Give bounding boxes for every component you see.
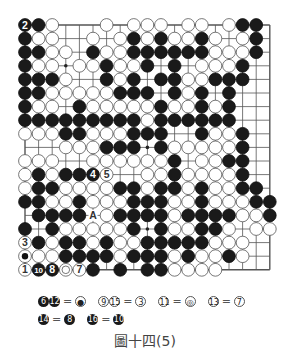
white-stone — [209, 46, 222, 59]
black-stone — [127, 73, 140, 86]
black-stone — [250, 32, 263, 45]
black-stone — [141, 46, 154, 59]
white-stone — [46, 195, 59, 208]
black-stone — [236, 19, 249, 32]
black-stone — [32, 114, 45, 127]
white-stone — [46, 250, 59, 263]
black-stone — [19, 223, 32, 236]
white-stone — [114, 73, 127, 86]
white-stone — [155, 155, 168, 168]
white-stone — [223, 168, 236, 181]
move-number-label: 1 — [22, 263, 28, 275]
black-stone — [195, 195, 208, 208]
white-stone — [32, 32, 45, 45]
black-stone — [236, 141, 249, 154]
white-stone — [250, 223, 263, 236]
black-stone — [73, 250, 86, 263]
white-stone — [73, 182, 86, 195]
white-stone — [141, 155, 154, 168]
white-stone — [182, 73, 195, 86]
black-stone — [19, 59, 32, 72]
black-stone — [155, 223, 168, 236]
black-stone — [195, 100, 208, 113]
white-stone — [263, 223, 276, 236]
black-stone — [195, 46, 208, 59]
white-stone — [46, 168, 59, 181]
white-stone — [223, 141, 236, 154]
black-stone — [114, 263, 127, 276]
white-stone — [46, 19, 59, 32]
white-stone — [87, 32, 100, 45]
black-stone — [19, 46, 32, 59]
black-stone — [223, 209, 236, 222]
black-stone — [46, 73, 59, 86]
legend-stone: ◎ — [185, 296, 196, 307]
black-stone — [168, 155, 181, 168]
white-stone — [114, 223, 127, 236]
white-stone — [209, 195, 222, 208]
white-stone — [168, 263, 181, 276]
black-stone — [195, 127, 208, 140]
white-stone — [46, 155, 59, 168]
white-stone — [59, 141, 72, 154]
white-stone — [59, 182, 72, 195]
white-stone — [195, 59, 208, 72]
white-stone — [155, 19, 168, 32]
black-stone — [182, 46, 195, 59]
black-stone — [168, 236, 181, 249]
black-stone — [100, 73, 113, 86]
white-stone — [168, 209, 181, 222]
black-stone — [127, 127, 140, 140]
white-stone — [114, 250, 127, 263]
white-stone — [114, 100, 127, 113]
move-number-label: 7 — [76, 263, 82, 275]
black-stone — [263, 209, 276, 222]
black-stone — [127, 46, 140, 59]
black-stone — [141, 195, 154, 208]
white-stone — [209, 263, 222, 276]
black-stone — [155, 114, 168, 127]
black-stone — [223, 100, 236, 113]
white-stone — [73, 59, 86, 72]
black-stone — [87, 250, 100, 263]
black-stone — [19, 195, 32, 208]
white-stone — [114, 195, 127, 208]
legend-stone: 13 — [208, 296, 219, 307]
legend-equivalence: 11=◎ — [158, 295, 195, 308]
white-stone — [59, 46, 72, 59]
black-stone — [195, 209, 208, 222]
black-stone — [73, 127, 86, 140]
white-stone — [168, 250, 181, 263]
black-stone — [155, 100, 168, 113]
black-stone — [155, 209, 168, 222]
white-stone — [19, 155, 32, 168]
white-stone — [59, 195, 72, 208]
black-stone — [73, 195, 86, 208]
white-stone — [87, 127, 100, 140]
white-stone — [195, 250, 208, 263]
black-stone — [59, 250, 72, 263]
white-stone — [141, 19, 154, 32]
equals-sign: = — [123, 295, 132, 308]
black-stone — [32, 168, 45, 181]
white-stone — [100, 155, 113, 168]
black-stone — [168, 87, 181, 100]
white-stone — [209, 32, 222, 45]
black-stone — [155, 32, 168, 45]
white-stone — [100, 209, 113, 222]
white-stone — [100, 46, 113, 59]
black-stone — [46, 114, 59, 127]
black-stone — [155, 250, 168, 263]
legend-stone: ● — [75, 296, 86, 307]
black-stone — [141, 236, 154, 249]
black-stone — [236, 59, 249, 72]
legend-stone: 9 — [98, 296, 109, 307]
black-stone — [32, 195, 45, 208]
white-stone — [182, 263, 195, 276]
white-stone — [100, 19, 113, 32]
white-stone — [87, 155, 100, 168]
white-stone — [73, 87, 86, 100]
white-stone — [209, 182, 222, 195]
equals-sign: = — [101, 313, 110, 326]
black-stone — [114, 182, 127, 195]
